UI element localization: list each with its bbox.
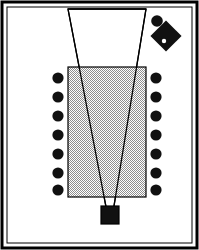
chair-left-7 [52,184,63,195]
chair-right-3 [150,110,161,121]
chair-left-3 [52,110,63,121]
chair-left-1 [52,72,63,83]
chair-left-4 [52,129,63,140]
camera [101,206,119,224]
chair-right-7 [150,184,161,195]
chair-right-5 [150,148,161,159]
room-plan-figure [0,0,199,250]
chair-left-5 [52,148,63,159]
chair-left-2 [52,91,63,102]
chair-right-1 [150,72,161,83]
chair-right-2 [150,91,161,102]
chair-right-6 [150,167,161,178]
room-plan-canvas [0,0,199,250]
chair-right-4 [150,129,161,140]
round-object [151,15,163,27]
chair-left-6 [52,167,63,178]
conference-table [68,67,146,197]
